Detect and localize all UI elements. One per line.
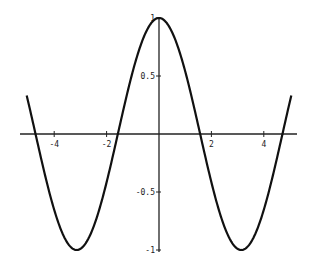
x-tick-label: -4 <box>49 140 59 149</box>
x-tick-label: 2 <box>209 140 214 149</box>
x-tick-label: -2 <box>102 140 112 149</box>
cosine-plot: -4-224 10.5-0.5-1 <box>0 0 312 267</box>
y-tick-label: 0.5 <box>141 72 156 81</box>
y-tick-label: -1 <box>145 246 155 255</box>
y-tick-label: -0.5 <box>136 188 155 197</box>
x-tick-label: 4 <box>261 140 266 149</box>
